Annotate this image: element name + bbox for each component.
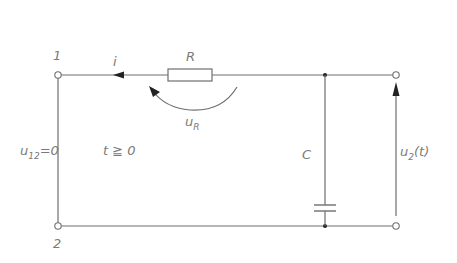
time-condition-label: t ≧ 0 [103,143,136,158]
output-voltage-label: u2(t) [400,144,429,162]
resistor-voltage-label: uR [185,114,200,132]
current-arrow-icon [113,72,124,79]
input-voltage-label: u12=0 [20,143,59,161]
rc-circuit-diagram: 1 2 i R uR u12=0 t ≧ 0 C u2(t) [0,0,457,263]
resistor-voltage-arrowhead-icon [149,86,160,97]
resistor-label: R [186,49,195,64]
capacitor-label: C [302,147,312,162]
terminal-1-label: 1 [53,48,61,63]
resistor [168,69,212,81]
output-voltage-arrowhead-icon [393,82,400,96]
terminal-out-top [393,72,399,78]
terminal-2-label: 2 [53,236,61,251]
terminal-out-bottom [393,223,399,229]
terminal-1 [55,72,61,78]
terminal-2 [55,223,61,229]
resistor-voltage-arc [152,87,237,110]
current-label: i [113,54,117,69]
